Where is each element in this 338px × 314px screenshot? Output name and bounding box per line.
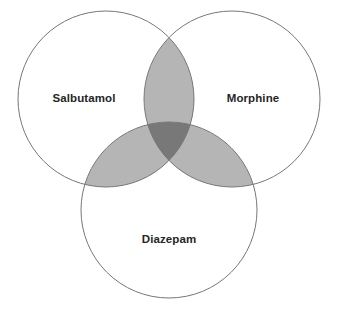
- set-label-morphine: Morphine: [227, 92, 280, 104]
- set-label-salbutamol: Salbutamol: [53, 92, 116, 104]
- set-label-diazepam: Diazepam: [142, 233, 197, 245]
- venn-diagram-canvas: Salbutamol Morphine Diazepam: [0, 0, 338, 314]
- venn-diagram-figure: Salbutamol Morphine Diazepam: [0, 0, 338, 314]
